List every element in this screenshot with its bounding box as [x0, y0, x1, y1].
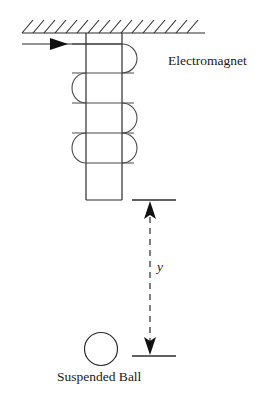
- current-direction-arrow-icon: [50, 38, 68, 50]
- coil-arc-left-1: [72, 73, 86, 103]
- electromagnet-core: [86, 33, 122, 200]
- coil-arc-right-2: [122, 103, 137, 133]
- ceiling-hatching: [22, 20, 198, 33]
- current-lead-wire: [22, 38, 122, 50]
- hatched-ceiling: [22, 20, 205, 33]
- coil-arc-left-2: [72, 133, 86, 163]
- dimension-arrow-up-icon: [144, 201, 156, 219]
- coil-arc-right-1: [122, 44, 137, 73]
- physics-diagram: Electromagnet Suspended Ball y: [0, 0, 277, 405]
- electromagnet-label: Electromagnet: [168, 53, 247, 69]
- coil-arc-right-3: [122, 133, 137, 163]
- coil-winding: [72, 44, 137, 163]
- gap-distance-label: y: [157, 259, 163, 275]
- gap-dimension-y: [132, 200, 176, 356]
- suspended-ball-label: Suspended Ball: [57, 369, 141, 385]
- suspended-ball: [85, 333, 118, 366]
